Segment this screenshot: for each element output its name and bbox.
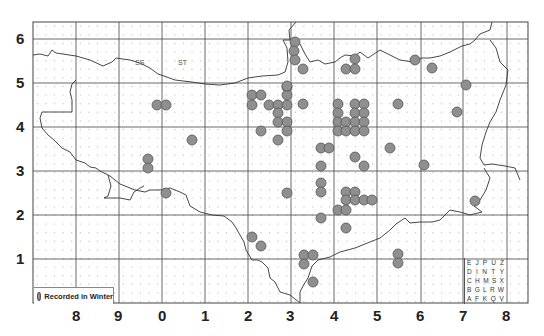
record-dot bbox=[350, 117, 360, 127]
key-letter: T bbox=[491, 267, 495, 276]
record-dot bbox=[298, 99, 308, 109]
record-dot bbox=[187, 135, 197, 145]
record-dot bbox=[247, 232, 257, 242]
record-dot bbox=[282, 126, 292, 136]
key-letter: A bbox=[467, 294, 471, 303]
x-axis-label: 1 bbox=[201, 307, 209, 324]
record-dot bbox=[299, 250, 309, 260]
county-boundary bbox=[33, 22, 520, 303]
x-axis-label: 0 bbox=[158, 307, 166, 324]
record-dot bbox=[419, 160, 429, 170]
key-letter: Q bbox=[491, 294, 496, 303]
key-letter: X bbox=[500, 276, 504, 285]
record-dot bbox=[308, 250, 318, 260]
record-dot bbox=[452, 107, 462, 117]
record-dot bbox=[273, 108, 283, 118]
x-axis-label: 4 bbox=[330, 307, 338, 324]
record-dot bbox=[247, 100, 257, 110]
tetrad-letter-key: EJPUZ DINTY CHMSX BGLRW AFKQV bbox=[464, 258, 506, 304]
legend-label: Recorded in Winter bbox=[44, 292, 113, 301]
x-axis-label: 6 bbox=[416, 307, 424, 324]
record-dot bbox=[427, 63, 437, 73]
map-legend: Recorded in Winter bbox=[34, 287, 114, 304]
key-row: AFKQV bbox=[465, 294, 506, 303]
record-dot bbox=[316, 187, 326, 197]
key-letter: M bbox=[483, 276, 488, 285]
y-axis-label: 5 bbox=[16, 74, 24, 91]
record-dot bbox=[350, 126, 360, 136]
record-dot bbox=[393, 99, 403, 109]
distribution-map bbox=[0, 0, 544, 336]
record-dot bbox=[410, 55, 420, 65]
record-dot bbox=[282, 188, 292, 198]
record-dot bbox=[161, 100, 171, 110]
key-letter: L bbox=[483, 285, 487, 294]
winter-records bbox=[143, 37, 480, 287]
record-dot bbox=[299, 259, 309, 269]
record-dot bbox=[359, 117, 369, 127]
key-letter: N bbox=[482, 267, 487, 276]
key-row: EJPUZ bbox=[465, 258, 506, 267]
key-letter: B bbox=[467, 285, 471, 294]
key-letter: J bbox=[475, 258, 478, 267]
record-dot bbox=[341, 195, 351, 205]
record-dot bbox=[143, 154, 153, 164]
record-dot bbox=[385, 143, 395, 153]
y-axis-label: 1 bbox=[16, 250, 24, 267]
y-axis-label: 3 bbox=[16, 162, 24, 179]
key-letter: K bbox=[483, 294, 487, 303]
record-dot bbox=[256, 90, 266, 100]
record-dot bbox=[143, 163, 153, 173]
key-letter: P bbox=[483, 258, 487, 267]
grid-square-label: ST bbox=[178, 59, 187, 66]
key-row: DINTY bbox=[465, 267, 506, 276]
record-dot bbox=[273, 135, 283, 145]
key-letter: V bbox=[500, 294, 504, 303]
record-dot bbox=[289, 46, 299, 56]
record-dot bbox=[333, 108, 343, 118]
tetrad-dot-grid bbox=[37, 26, 529, 303]
record-dot bbox=[393, 258, 403, 268]
x-axis-label: 2 bbox=[244, 307, 252, 324]
key-row: CHMSX bbox=[465, 276, 506, 285]
x-axis-label: 5 bbox=[373, 307, 381, 324]
record-dot bbox=[470, 196, 480, 206]
record-dot bbox=[350, 99, 360, 109]
record-dot bbox=[393, 249, 403, 259]
record-dot bbox=[282, 90, 292, 100]
record-dot bbox=[341, 126, 351, 136]
y-axis-label: 2 bbox=[16, 206, 24, 223]
y-axis-label: 4 bbox=[16, 118, 24, 135]
x-axis-label: 8 bbox=[502, 307, 510, 324]
key-letter: W bbox=[498, 285, 504, 294]
key-letter: I bbox=[476, 267, 478, 276]
record-dot bbox=[290, 55, 300, 65]
key-letter: G bbox=[475, 285, 480, 294]
key-letter: Z bbox=[500, 258, 504, 267]
record-dot bbox=[359, 108, 369, 118]
record-dot bbox=[247, 90, 257, 100]
record-dot bbox=[282, 117, 292, 127]
record-marker-icon bbox=[37, 292, 41, 301]
record-dot bbox=[367, 195, 377, 205]
record-dot bbox=[256, 241, 266, 251]
record-dot bbox=[359, 161, 369, 171]
record-dot bbox=[461, 80, 471, 90]
record-dot bbox=[282, 100, 292, 110]
key-letter: E bbox=[467, 258, 471, 267]
record-dot bbox=[341, 223, 351, 233]
record-dot bbox=[350, 152, 360, 162]
record-dot bbox=[256, 126, 266, 136]
y-axis-label: 6 bbox=[16, 30, 24, 47]
record-dot bbox=[282, 81, 292, 91]
record-dot bbox=[290, 37, 300, 47]
record-dot bbox=[359, 126, 369, 136]
record-dot bbox=[341, 117, 351, 127]
record-dot bbox=[350, 195, 360, 205]
record-dot bbox=[273, 117, 283, 127]
record-dot bbox=[316, 161, 326, 171]
record-dot bbox=[350, 108, 360, 118]
record-dot bbox=[316, 178, 326, 188]
x-axis-label: 7 bbox=[459, 307, 467, 324]
key-letter: D bbox=[467, 267, 472, 276]
